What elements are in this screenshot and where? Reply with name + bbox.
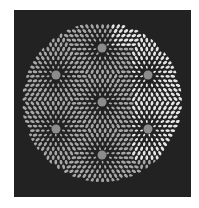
rosette-center-lower-right [144,125,153,134]
rosette-center-bottom [98,151,107,160]
rosette-center-upper-left [52,71,61,80]
rosette-pattern-artwork [0,0,199,208]
rosette-center-center [98,98,107,107]
rosette-center-lower-left [52,125,61,134]
rosette-center-upper-right [144,71,153,80]
rosette-center-top [98,44,107,53]
